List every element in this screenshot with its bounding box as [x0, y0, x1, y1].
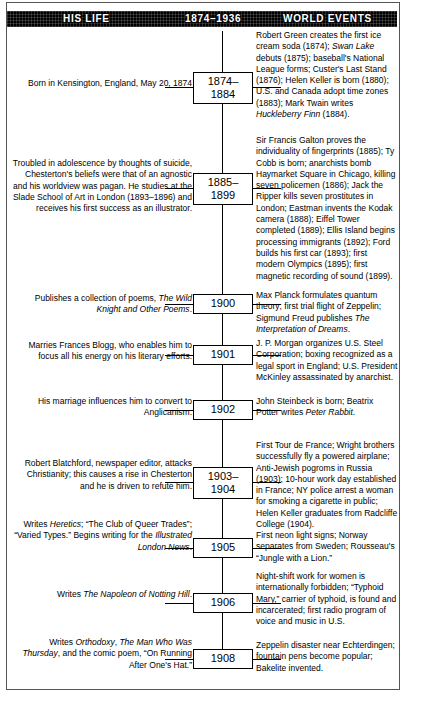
- year-box[interactable]: 1885–1899: [193, 173, 253, 205]
- year-box[interactable]: 1905: [193, 538, 253, 558]
- year-box[interactable]: 1874–1884: [193, 72, 253, 104]
- connector-right: [253, 659, 281, 660]
- year-label-primary: 1905: [194, 541, 252, 554]
- connector-left: [165, 548, 193, 549]
- connector-left: [165, 355, 193, 356]
- connector-right: [253, 188, 281, 189]
- year-label-primary: 1901: [194, 348, 252, 361]
- year-label-primary: 1908: [194, 652, 252, 665]
- connector-left: [165, 87, 193, 88]
- row-life-text: Troubled in adolescence by thoughts of s…: [12, 158, 192, 214]
- row-world-text: J. P. Morgan organizes U.S. Steel Corpor…: [256, 338, 398, 383]
- year-label-primary: 1874–: [194, 75, 252, 88]
- row-world-text: Sir Francis Galton proves the individual…: [256, 135, 398, 282]
- year-label-primary: 1885–: [194, 176, 252, 189]
- row-life-text: Writes Orthodoxy, The Man Who Was Thursd…: [12, 637, 192, 671]
- header-year-range: 1874–1936: [185, 13, 241, 24]
- connector-right: [253, 304, 281, 305]
- year-label-secondary: 1904: [194, 483, 252, 496]
- row-world-text: Night-shift work for women is internatio…: [256, 571, 398, 627]
- year-box[interactable]: 1903–1904: [193, 467, 253, 499]
- year-box[interactable]: 1902: [193, 400, 253, 420]
- connector-left: [165, 188, 193, 189]
- timeline-header-band: HIS LIFE 1874–1936 WORLD EVENTS: [7, 11, 397, 27]
- connector-right: [253, 87, 281, 88]
- connector-right: [253, 410, 281, 411]
- year-box[interactable]: 1906: [193, 593, 253, 613]
- connector-right: [253, 355, 281, 356]
- connector-left: [165, 304, 193, 305]
- connector-left: [165, 603, 193, 604]
- year-label-primary: 1902: [194, 403, 252, 416]
- connector-right: [253, 548, 281, 549]
- header-his-life: HIS LIFE: [63, 13, 110, 24]
- connector-right: [253, 603, 281, 604]
- year-label-secondary: 1899: [194, 189, 252, 202]
- connector-left: [165, 410, 193, 411]
- row-world-text: Robert Green creates the first ice cream…: [256, 30, 398, 120]
- row-life-text: Marries Frances Blogg, who enables him t…: [12, 340, 192, 363]
- row-life-text: Robert Blatchford, newspaper editor, att…: [12, 458, 192, 492]
- year-label-primary: 1906: [194, 596, 252, 609]
- year-label-primary: 1903–: [194, 470, 252, 483]
- row-world-text: John Steinbeck is born; Beatrix Potter w…: [256, 396, 398, 419]
- connector-left: [165, 482, 193, 483]
- header-world-events: WORLD EVENTS: [283, 13, 372, 24]
- row-world-text: Zeppelin disaster near Echterdingen; fou…: [256, 640, 398, 674]
- connector-right: [253, 482, 281, 483]
- year-box[interactable]: 1901: [193, 345, 253, 365]
- connector-left: [165, 659, 193, 660]
- year-box[interactable]: 1908: [193, 649, 253, 669]
- row-world-text: Max Planck formulates quantum theory; fi…: [256, 290, 398, 335]
- row-world-text: First Tour de France; Wright brothers su…: [256, 440, 398, 530]
- year-label-primary: 1900: [194, 297, 252, 310]
- year-label-secondary: 1884: [194, 88, 252, 101]
- year-box[interactable]: 1900: [193, 294, 253, 314]
- row-life-text: Writes The Napoleon of Notting Hill.: [12, 589, 192, 600]
- row-life-text: His marriage influences him to convert t…: [12, 396, 192, 419]
